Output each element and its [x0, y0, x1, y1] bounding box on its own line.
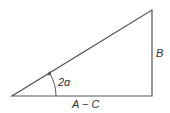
right-triangle — [12, 10, 152, 96]
angle-arc — [50, 73, 56, 96]
vertical-side-label: B — [156, 47, 163, 59]
angle-label: 2α — [57, 76, 71, 88]
horizontal-side-label: A − C — [71, 98, 99, 110]
triangle-diagram: 2α B A − C — [0, 0, 170, 113]
